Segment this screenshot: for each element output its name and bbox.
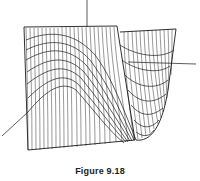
figure-caption: Figure 9.18 (0, 166, 200, 176)
wireframe-surface (24, 26, 176, 150)
left-axis (2, 112, 28, 136)
surface-plot (0, 0, 200, 181)
